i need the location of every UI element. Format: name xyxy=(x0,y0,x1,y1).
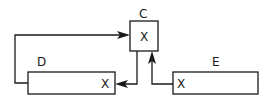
node-e-mark: X xyxy=(177,77,185,91)
node-e-box xyxy=(173,72,258,94)
node-d-mark: X xyxy=(101,77,109,91)
node-c-label: C xyxy=(139,7,147,21)
edge-e-to-c xyxy=(148,51,173,84)
node-e-label: E xyxy=(212,55,220,69)
edge-c-to-d-line xyxy=(123,51,137,84)
node-d: D X xyxy=(28,55,115,94)
diagram: C X D X E X xyxy=(0,0,274,102)
node-c-mark: X xyxy=(140,30,148,44)
node-d-label: D xyxy=(37,55,46,69)
node-e: E X xyxy=(173,55,258,94)
edge-c-to-d xyxy=(115,51,137,88)
node-c: C X xyxy=(130,7,158,51)
